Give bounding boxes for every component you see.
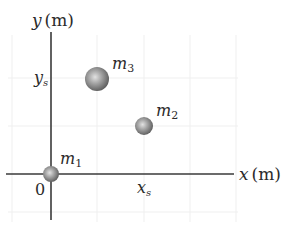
mass-m1: m1 [43,149,82,182]
coordinate-diagram: y(m) x(m) 0 ys xs m1 m3 m2 [0,0,295,229]
mass-m3: m3 [85,54,134,91]
mass-m3-label: m3 [112,54,134,75]
y-axis-label: y(m) [31,10,74,30]
x-tick-label: xs [137,178,151,198]
mass-m2-label: m2 [156,101,178,122]
x-axis-label: x(m) [239,164,281,184]
sphere-icon [85,67,109,91]
sphere-icon [43,166,59,182]
sphere-icon [135,117,153,135]
origin-label: 0 [35,180,45,199]
y-tick-label: ys [33,68,48,88]
mass-m2: m2 [135,101,178,135]
mass-m1-label: m1 [60,149,82,170]
